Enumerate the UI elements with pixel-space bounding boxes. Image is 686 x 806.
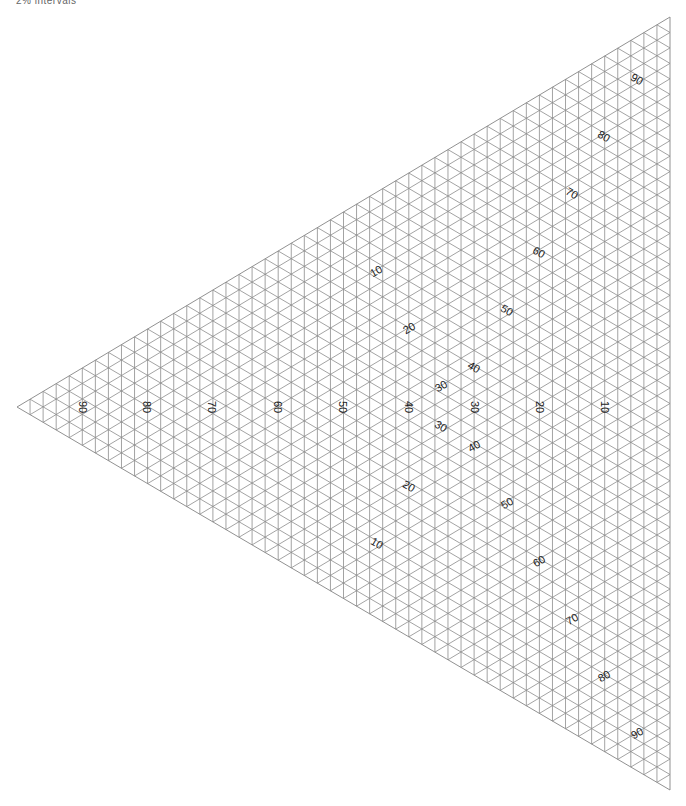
grid-line bbox=[526, 103, 670, 187]
grid-line bbox=[108, 125, 670, 460]
grid-line bbox=[56, 63, 670, 430]
grid-line bbox=[396, 181, 670, 342]
grid-line bbox=[291, 342, 670, 568]
grid-line bbox=[187, 218, 670, 507]
grid-line bbox=[579, 72, 670, 126]
grid-line bbox=[657, 25, 670, 33]
grid-line bbox=[657, 775, 670, 783]
grid-line bbox=[448, 150, 670, 280]
middle-axis-label: 10 bbox=[599, 401, 611, 413]
grid-line bbox=[552, 87, 670, 156]
ternary-grid: 9080706050403020101020304050607080901020… bbox=[0, 0, 686, 806]
middle-axis-label: 50 bbox=[337, 401, 349, 413]
grid-line bbox=[500, 118, 670, 218]
grid-line bbox=[161, 321, 670, 620]
axis-labels: 9080706050403020101020304050607080901020… bbox=[77, 70, 647, 742]
middle-axis-label: 90 bbox=[77, 401, 89, 413]
grid-lines bbox=[30, 25, 670, 783]
grid-line bbox=[135, 337, 670, 651]
grid-line bbox=[422, 165, 670, 311]
middle-axis-label: 80 bbox=[141, 401, 153, 413]
grid-line bbox=[187, 306, 670, 589]
grid-line bbox=[135, 156, 670, 476]
grid-line bbox=[161, 187, 670, 491]
grid-line bbox=[108, 352, 670, 681]
middle-axis-label: 40 bbox=[403, 401, 415, 413]
grid-line bbox=[579, 682, 670, 737]
middle-axis-label: 70 bbox=[206, 401, 218, 413]
grid-line bbox=[317, 373, 670, 584]
grid-line bbox=[422, 496, 670, 644]
grid-line bbox=[317, 228, 670, 435]
grid-line bbox=[526, 620, 670, 706]
middle-axis-label: 60 bbox=[272, 401, 284, 413]
grid-line bbox=[500, 589, 670, 690]
grid-line bbox=[396, 465, 670, 629]
middle-axis-label: 20 bbox=[534, 401, 546, 413]
grid-line bbox=[370, 434, 670, 613]
grid-line bbox=[552, 651, 670, 721]
grid-line bbox=[56, 384, 670, 744]
middle-axis-label: 30 bbox=[469, 401, 481, 413]
